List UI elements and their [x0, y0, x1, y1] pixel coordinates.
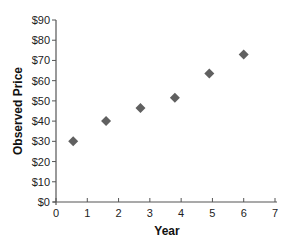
diamond-marker: [204, 69, 214, 79]
x-tick-label: 5: [209, 207, 215, 219]
scatter-chart: $0$10$20$30$40$50$60$70$80$90 01234567 O…: [0, 0, 295, 248]
y-tick-label: $0: [38, 196, 50, 208]
x-tick-label: 3: [147, 207, 153, 219]
y-tick-label: $60: [32, 75, 50, 87]
y-tick-label: $30: [32, 135, 50, 147]
y-tick-label: $20: [32, 156, 50, 168]
y-tick-label: $90: [32, 14, 50, 26]
y-axis-title: Observed Price: [11, 67, 25, 155]
y-axis: $0$10$20$30$40$50$60$70$80$90: [32, 14, 56, 208]
x-tick-label: 6: [241, 207, 247, 219]
x-axis: 01234567: [53, 198, 278, 219]
y-tick-label: $40: [32, 115, 50, 127]
y-tick-label: $50: [32, 95, 50, 107]
diamond-marker: [170, 93, 180, 103]
x-tick-label: 4: [178, 207, 184, 219]
x-tick-label: 7: [272, 207, 278, 219]
x-tick-label: 1: [84, 207, 90, 219]
y-tick-label: $10: [32, 176, 50, 188]
x-tick-label: 0: [53, 207, 59, 219]
y-tick-label: $70: [32, 54, 50, 66]
diamond-marker: [135, 103, 145, 113]
x-tick-label: 2: [116, 207, 122, 219]
diamond-marker: [239, 49, 249, 59]
x-axis-title: Year: [154, 224, 180, 238]
y-tick-label: $80: [32, 34, 50, 46]
diamond-marker: [101, 116, 111, 126]
data-points: [68, 49, 249, 146]
diamond-marker: [68, 136, 78, 146]
